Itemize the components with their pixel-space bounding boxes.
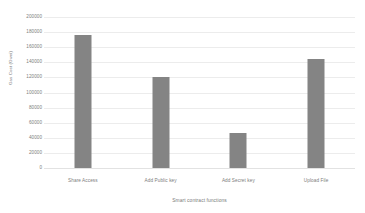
y-axis-tick-labels: 2000001800001600001400001200001000008000…	[14, 0, 42, 213]
plot-area	[44, 17, 355, 168]
x-axis-title: Smart contract functions	[44, 196, 355, 206]
x-axis-tick-label: Add Secret key	[200, 176, 278, 185]
bars-group	[44, 17, 355, 168]
y-axis-tick-label: 40000	[14, 134, 42, 142]
y-axis-tick-label: 140000	[14, 58, 42, 66]
y-axis-tick-label: 20000	[14, 149, 42, 157]
y-axis-tick-label: 100000	[14, 89, 42, 97]
y-axis-tick-label: 0	[14, 164, 42, 172]
y-axis-tick-label: 80000	[14, 104, 42, 112]
x-axis-tick-label: Share Access	[44, 176, 122, 185]
bar-slot	[44, 17, 122, 168]
x-axis-tick-label: Upload File	[277, 176, 355, 185]
bar[interactable]	[74, 35, 91, 168]
bar[interactable]	[308, 59, 325, 168]
bar[interactable]	[230, 133, 247, 168]
y-axis-tick-label: 60000	[14, 119, 42, 127]
x-axis-tick-labels: Share AccessAdd Public keyAdd Secret key…	[44, 176, 355, 186]
bar-chart: Gas Cost (Gwei) 200000180000160000140000…	[0, 0, 365, 213]
bar-slot	[200, 17, 278, 168]
y-axis-tick-label: 180000	[14, 28, 42, 36]
bar[interactable]	[152, 77, 169, 168]
x-axis-tick-label: Add Public key	[122, 176, 200, 185]
y-axis-tick-label: 160000	[14, 43, 42, 51]
y-axis-tick-label: 120000	[14, 73, 42, 81]
bar-slot	[122, 17, 200, 168]
bar-slot	[277, 17, 355, 168]
y-axis-tick-label: 200000	[14, 13, 42, 21]
gridline	[44, 168, 355, 169]
